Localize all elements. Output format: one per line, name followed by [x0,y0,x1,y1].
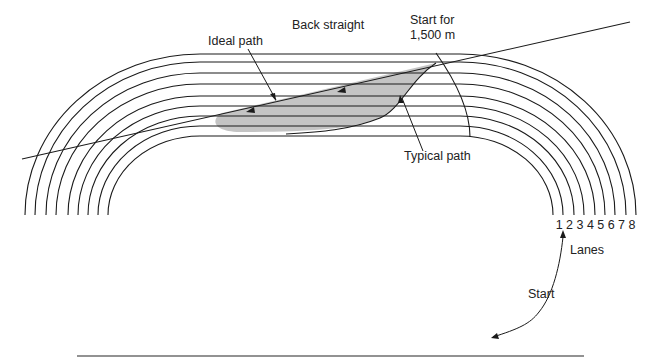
lane-number: 3 [575,218,585,232]
lane-number: 7 [616,218,626,232]
lane-numbers: 1 2 3 4 5 6 7 8 [554,218,637,232]
ideal-path-line [22,22,630,159]
lane-line-0 [108,136,553,215]
track-drawing [0,0,652,362]
label-back-straight: Back straight [292,18,364,33]
lane-line-1 [98,126,563,215]
lane-number: 1 [554,218,564,232]
lane-number: 6 [606,218,616,232]
label-typical-path: Typical path [404,149,471,164]
lane-lines [25,54,636,215]
lane-number: 8 [627,218,637,232]
lane-number: 5 [596,218,606,232]
arrowhead-icon [270,93,276,101]
lane-line-7 [35,62,626,215]
start-arrowhead-down-icon [491,333,499,339]
track-diagram: Back straight Ideal path Start for 1,500… [0,0,652,362]
lane-number: 4 [585,218,595,232]
label-start-for-line1: Start for [410,13,454,28]
lane-line-2 [88,116,574,215]
start-1500m-line [436,53,470,137]
ideal-path-leader [248,49,276,100]
label-start-for-line2: 1,500 m [410,28,455,43]
label-start: Start [528,287,554,302]
label-lanes: Lanes [570,243,604,258]
lane-number: 2 [564,218,574,232]
label-ideal-path: Ideal path [208,34,263,49]
